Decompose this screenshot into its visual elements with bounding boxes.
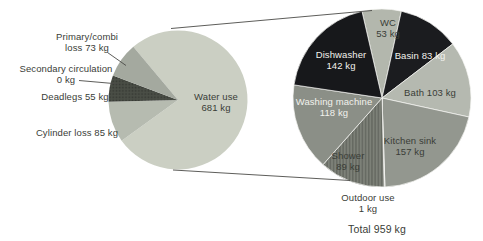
label-line: Cylinder loss 85 kg — [36, 127, 118, 138]
label-secondary-circulation: Secondary circulation 0 kg — [20, 63, 113, 86]
label-wc: WC 53 kg — [376, 16, 400, 39]
label-line: Shower — [332, 149, 365, 160]
label-line: WC — [376, 16, 400, 27]
label-line: 89 kg — [332, 161, 365, 172]
zoom-connector-bottom-line — [173, 170, 350, 181]
label-primary-combi-loss: Primary/combi loss 73 kg — [56, 31, 118, 54]
label-line: Primary/combi — [56, 31, 118, 42]
label-line: Basin 83 kg — [395, 50, 446, 61]
label-outdoor-use: Outdoor use 1 kg — [341, 192, 394, 215]
label-line: Total 959 kg — [348, 224, 406, 235]
label-line: Dishwasher — [316, 48, 367, 59]
label-line: Water use — [194, 91, 238, 102]
label-line: 0 kg — [20, 74, 113, 85]
label-line: Kitchen sink — [384, 135, 436, 146]
label-basin: Basin 83 kg — [395, 50, 446, 61]
label-line: 53 kg — [376, 28, 400, 39]
label-kitchen-sink: Kitchen sink 157 kg — [384, 135, 436, 158]
figure-water-use-pies: Primary/combi loss 73 kg Secondary circu… — [0, 0, 483, 241]
total-label: Total 959 kg — [348, 224, 406, 235]
label-line: 142 kg — [316, 60, 367, 71]
label-bath: Bath 103 kg — [404, 87, 456, 98]
label-washing-machine: Washing machine 118 kg — [296, 96, 373, 119]
label-line: loss 73 kg — [56, 42, 118, 53]
label-line: Deadlegs 55 kg — [41, 91, 108, 102]
label-line: 1 kg — [341, 203, 394, 214]
label-deadlegs: Deadlegs 55 kg — [41, 91, 108, 102]
label-line: Bath 103 kg — [404, 87, 456, 98]
label-line: 681 kg — [194, 102, 238, 113]
label-dishwasher: Dishwasher 142 kg — [316, 48, 367, 71]
label-line: 118 kg — [296, 107, 373, 118]
label-cylinder-loss: Cylinder loss 85 kg — [36, 127, 118, 138]
label-line: Washing machine — [296, 96, 373, 107]
label-line: Secondary circulation — [20, 63, 113, 74]
label-line: 157 kg — [384, 146, 436, 157]
label-line: Outdoor use — [341, 192, 394, 203]
label-shower: Shower 89 kg — [332, 149, 365, 172]
label-water-use: Water use 681 kg — [194, 91, 238, 114]
